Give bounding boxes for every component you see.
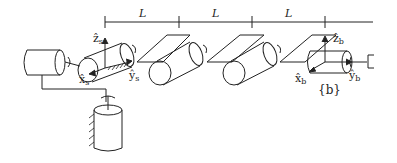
frame-s-x-label: x̂s <box>79 74 89 87</box>
link-length-label-1: L <box>139 8 146 19</box>
frame-s-z-label: ẑs <box>93 33 103 46</box>
frame-s-y-label: ŷs <box>129 70 139 83</box>
link-2 <box>137 35 207 85</box>
robot-arm-diagram <box>0 0 397 163</box>
link-length-label-3: L <box>285 8 292 19</box>
fixed-base-cylinder <box>89 96 122 151</box>
link-length-label-2: L <box>212 8 219 19</box>
frame-b-z-label: ẑb <box>333 33 344 46</box>
frame-b-label: {b} <box>318 84 341 96</box>
link-3 <box>207 35 281 85</box>
frame-b-y-label: ŷb <box>349 70 360 83</box>
frame-b-x-label: x̂b <box>295 73 306 86</box>
base-motor-cylinder <box>24 50 80 75</box>
base-bracket <box>42 75 106 102</box>
frame-b-axes <box>309 36 352 72</box>
